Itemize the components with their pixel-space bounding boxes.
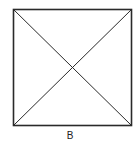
- diagram-canvas: B: [0, 0, 139, 145]
- figure-label: B: [67, 130, 74, 141]
